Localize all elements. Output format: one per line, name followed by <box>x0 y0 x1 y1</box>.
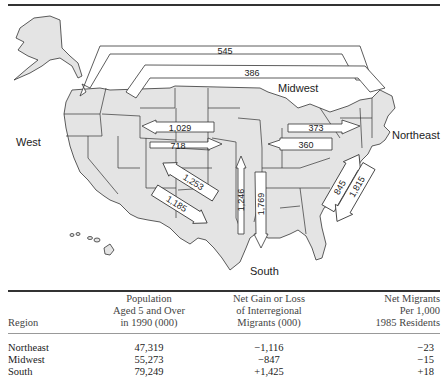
header-net-gain: Net Gain or Loss of Interregional Migran… <box>204 293 334 334</box>
table-row: Northeast 47,319 −1,116 −23 <box>8 334 440 355</box>
cell-population: 47,319 <box>94 334 204 355</box>
svg-text:1,246: 1,246 <box>236 189 246 212</box>
table-top-rule <box>8 290 440 292</box>
cell-region: Northeast <box>8 334 94 355</box>
cell-net-rate: −15 <box>334 354 440 366</box>
cell-net-rate: −23 <box>334 334 440 355</box>
cell-population: 55,273 <box>94 354 204 366</box>
table-row: South 79,249 +1,425 +18 <box>8 366 440 378</box>
cell-net-rate: +18 <box>334 366 440 378</box>
svg-text:1,769: 1,769 <box>256 193 266 216</box>
region-label-northeast: Northeast <box>392 129 440 141</box>
svg-text:386: 386 <box>244 68 259 78</box>
cell-region: Midwest <box>8 354 94 366</box>
cell-net-gain: −847 <box>204 354 334 366</box>
svg-text:718: 718 <box>170 141 185 151</box>
cell-population: 79,249 <box>94 366 204 378</box>
table-header-row: Region Population Aged 5 and Over in 199… <box>8 293 440 334</box>
us-migration-flow-map: 545 386 1,029 718 1,253 1,185 1,246 1,76… <box>0 8 448 288</box>
region-label-midwest: Midwest <box>278 82 318 94</box>
migration-summary-table: Region Population Aged 5 and Over in 199… <box>8 293 440 378</box>
svg-text:360: 360 <box>298 140 313 150</box>
hawaii-shape <box>70 233 114 256</box>
header-net-rate: Net Migrants Per 1,000 1985 Residents <box>334 293 440 334</box>
region-label-south: South <box>250 265 279 277</box>
svg-text:1,029: 1,029 <box>169 123 192 133</box>
svg-text:373: 373 <box>308 123 323 133</box>
top-rule <box>8 4 440 6</box>
cell-net-gain: +1,425 <box>204 366 334 378</box>
flow-arrow-midwest-to-south: 1,769 <box>254 172 268 248</box>
flow-arrow-midwest-to-west: 1,029 <box>142 120 214 134</box>
header-region: Region <box>8 293 94 334</box>
alaska-shape <box>14 16 82 80</box>
cell-net-gain: −1,116 <box>204 334 334 355</box>
table-row: Midwest 55,273 −847 −15 <box>8 354 440 366</box>
header-population: Population Aged 5 and Over in 1990 (000) <box>94 293 204 334</box>
svg-text:545: 545 <box>217 46 232 56</box>
cell-region: South <box>8 366 94 378</box>
region-label-west: West <box>16 136 41 148</box>
